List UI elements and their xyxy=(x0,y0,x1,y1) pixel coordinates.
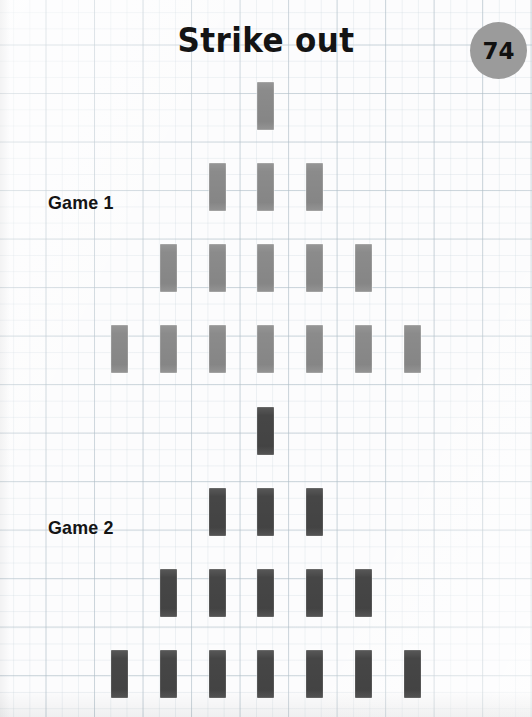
pin-game2-row1-1 xyxy=(257,407,274,455)
pin-game2-row4-2 xyxy=(160,650,177,698)
pin-game2-row2-3 xyxy=(306,488,323,536)
pin-game2-row2-1 xyxy=(209,488,226,536)
pin-game1-row2-2 xyxy=(257,163,274,211)
pin-game1-row4-4 xyxy=(257,325,274,373)
game-label-2: Game 2 xyxy=(48,517,114,539)
pin-game1-row4-6 xyxy=(355,325,372,373)
pin-game1-row4-5 xyxy=(306,325,323,373)
pin-game1-row3-2 xyxy=(209,244,226,292)
pin-game1-row1-1 xyxy=(257,82,274,130)
pin-game2-row3-5 xyxy=(355,569,372,617)
pin-game1-row3-5 xyxy=(355,244,372,292)
pin-game2-row4-4 xyxy=(257,650,274,698)
pin-game1-row4-1 xyxy=(111,325,128,373)
pin-game1-row3-4 xyxy=(306,244,323,292)
page-title: Strike out xyxy=(0,21,532,59)
worksheet-page: Strike out 74 Game 1Game 2 xyxy=(0,0,532,717)
pin-game1-row4-7 xyxy=(404,325,421,373)
pin-game1-row3-1 xyxy=(160,244,177,292)
pin-game2-row4-5 xyxy=(306,650,323,698)
pin-game2-row4-6 xyxy=(355,650,372,698)
pin-game1-row4-3 xyxy=(209,325,226,373)
pin-game2-row2-2 xyxy=(257,488,274,536)
pin-game2-row3-3 xyxy=(257,569,274,617)
pin-game1-row3-3 xyxy=(257,244,274,292)
pin-game1-row2-3 xyxy=(306,163,323,211)
pin-game2-row4-3 xyxy=(209,650,226,698)
pin-game2-row3-2 xyxy=(209,569,226,617)
page-number-badge: 74 xyxy=(470,22,527,79)
pin-game2-row3-4 xyxy=(306,569,323,617)
pin-game2-row3-1 xyxy=(160,569,177,617)
pin-game1-row2-1 xyxy=(209,163,226,211)
pin-game1-row4-2 xyxy=(160,325,177,373)
pin-game2-row4-1 xyxy=(111,650,128,698)
pin-game2-row4-7 xyxy=(404,650,421,698)
game-label-1: Game 1 xyxy=(48,192,114,214)
